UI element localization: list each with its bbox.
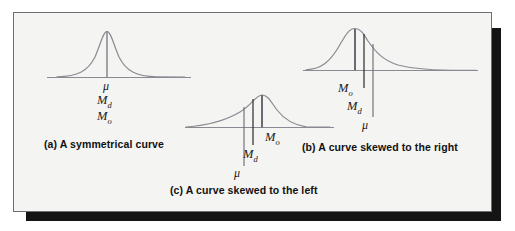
panel-c-label-mean: μ: [234, 167, 240, 179]
figure-frame: [13, 12, 492, 212]
panel-a-label-median-sub: d: [107, 100, 111, 110]
panel-b-label-mean: μ: [362, 119, 368, 131]
figure-shadow-right: [492, 28, 501, 221]
panel-c-label-mode-base: M: [265, 130, 275, 144]
panel-a-label-mode: Mo: [97, 110, 112, 125]
panel-b-label-median: Md: [347, 100, 362, 115]
panel-a-label-median: Md: [97, 94, 112, 109]
panel-c-label-median-sub: d: [253, 154, 257, 164]
panel-a-label-mode-base: M: [97, 109, 107, 123]
figure-root: μ Md Mo Mo Md μ Mo Md μ (a) A symmetrica…: [0, 0, 515, 231]
panel-c-label-mode: Mo: [265, 131, 280, 146]
panel-a-label-mode-sub: o: [107, 116, 111, 126]
panel-b-label-median-sub: d: [357, 106, 361, 116]
panel-a-caption: (a) A symmetrical curve: [44, 138, 164, 150]
panel-c-label-mode-sub: o: [275, 137, 279, 147]
panel-b-label-mode: Mo: [338, 82, 353, 97]
panel-b-label-mode-sub: o: [348, 88, 352, 98]
panel-c-label-median: Md: [243, 148, 258, 163]
figure-shadow-bottom: [26, 212, 501, 221]
panel-b-label-median-base: M: [347, 99, 357, 113]
panel-a-label-median-base: M: [97, 93, 107, 107]
panel-b-caption: (b) A curve skewed to the right: [302, 141, 458, 153]
panel-c-label-median-base: M: [243, 147, 253, 161]
panel-c-caption: (c) A curve skewed to the left: [170, 184, 318, 196]
panel-a-label-mean: μ: [103, 80, 109, 92]
panel-b-label-mode-base: M: [338, 81, 348, 95]
